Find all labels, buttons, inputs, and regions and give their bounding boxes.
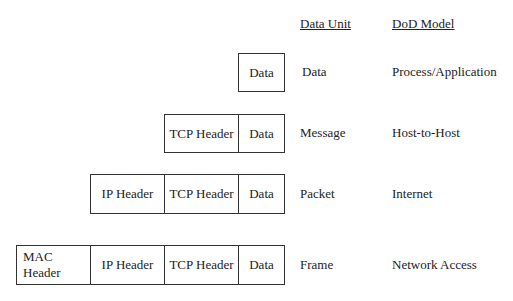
data-unit-label: Message [300,125,346,141]
column-header-data-unit: Data Unit [300,16,351,32]
dod-layer-label: Internet [392,186,432,202]
data-unit-label: Data [302,64,327,80]
data-box: Data [238,114,285,153]
mac-header-box: MAC Header [16,245,91,285]
tcp-header-box: TCP Header [164,174,239,214]
tcp-header-box: TCP Header [164,245,239,285]
ip-header-box: IP Header [90,174,165,214]
data-unit-label: Packet [300,186,335,202]
dod-layer-label: Process/Application [392,64,497,80]
data-box: Data [238,245,285,285]
column-header-dod-model: DoD Model [392,16,454,32]
dod-layer-label: Network Access [392,257,477,273]
data-box: Data [238,53,285,92]
data-box: Data [238,174,285,214]
tcp-header-box: TCP Header [164,114,239,153]
dod-layer-label: Host-to-Host [392,125,460,141]
ip-header-box: IP Header [90,245,165,285]
data-unit-label: Frame [300,257,333,273]
